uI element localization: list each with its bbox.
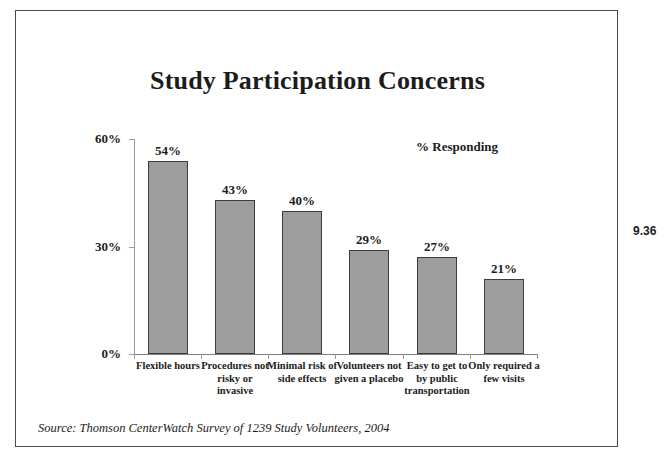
bar-minimal-risk-of-side-effects: 40% xyxy=(282,211,322,354)
bar-value-label: 21% xyxy=(491,261,517,277)
source-note: Source: Thomson CenterWatch Survey of 12… xyxy=(38,421,389,436)
bar-value-label: 43% xyxy=(222,182,248,198)
y-axis-tick-60: 60% xyxy=(129,139,134,140)
x-axis-tick-3 xyxy=(335,354,336,359)
x-axis-line xyxy=(134,354,538,355)
bar-volunteers-not-given-a-placebo: 29% xyxy=(349,250,389,354)
category-line: transportation xyxy=(398,385,476,398)
x-axis-category-label-5: Only required a few visits xyxy=(465,360,543,385)
x-axis-tick-0 xyxy=(134,354,135,359)
bar-only-required-a-few-visits: 21% xyxy=(484,279,524,354)
bar-value-label: 54% xyxy=(155,143,181,159)
bar-flexible-hours: 54% xyxy=(148,161,188,355)
bar-value-label: 27% xyxy=(424,239,450,255)
plot-area: 60% 30% 0% 54% 43% 40% 29% 27% xyxy=(134,139,538,354)
figure-frame: Study Participation Concerns % Respondin… xyxy=(15,10,618,447)
bar-value-label: 29% xyxy=(356,232,382,248)
chart-title: Study Participation Concerns xyxy=(16,66,619,96)
y-axis-tick-label-30: 30% xyxy=(95,239,121,255)
category-line: Volunteers not xyxy=(330,360,408,373)
bar-procedures-not-risky-or-invasive: 43% xyxy=(215,200,255,354)
category-line: given a placebo xyxy=(330,373,408,386)
bar-easy-to-get-to-by-public-transportation: 27% xyxy=(417,257,457,354)
x-axis-tick-6 xyxy=(537,354,538,359)
y-axis-tick-label-60: 60% xyxy=(95,131,121,147)
bar-value-label: 40% xyxy=(289,193,315,209)
category-line: invasive xyxy=(196,385,274,398)
y-axis-tick-30: 30% xyxy=(129,247,134,248)
x-axis-tick-4 xyxy=(403,354,404,359)
category-line: Only required a xyxy=(465,360,543,373)
figure-number: 9.36 xyxy=(633,224,656,238)
y-axis-tick-label-0: 0% xyxy=(102,346,122,362)
x-axis-tick-1 xyxy=(201,354,202,359)
x-axis-tick-5 xyxy=(470,354,471,359)
x-axis-category-label-3: Volunteers not given a placebo xyxy=(330,360,408,385)
category-line: few visits xyxy=(465,373,543,386)
x-axis-tick-2 xyxy=(268,354,269,359)
y-axis-line xyxy=(134,139,135,354)
